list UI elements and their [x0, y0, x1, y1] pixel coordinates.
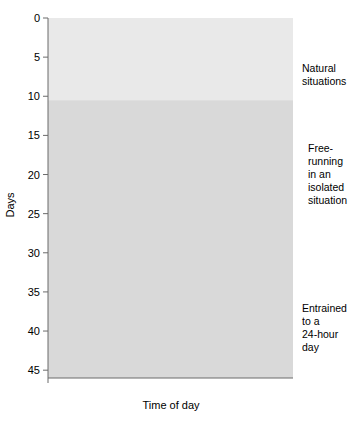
- actogram-svg: 051015202530354045 Days Time of day Natu…: [0, 0, 361, 426]
- annotation-entrained-line3: 24-hour: [302, 328, 339, 340]
- y-tick-label: 5: [34, 51, 40, 63]
- y-tick-label: 20: [28, 169, 40, 181]
- actogram-figure: 051015202530354045 Days Time of day Natu…: [0, 0, 361, 426]
- y-tick-label: 15: [28, 129, 40, 141]
- panel-natural: [48, 18, 293, 100]
- plot-panels: [48, 18, 293, 378]
- y-tick-label: 0: [34, 12, 40, 24]
- y-tick-label: 35: [28, 286, 40, 298]
- annotation-freerun-line2: running: [308, 155, 343, 167]
- annotation-natural-line2: situations: [302, 75, 346, 87]
- annotation-freerun-line4: isolated: [308, 181, 344, 193]
- y-tick-label: 25: [28, 208, 40, 220]
- annotation-natural-line1: Natural: [302, 62, 336, 74]
- y-axis-title: Days: [4, 192, 16, 218]
- annotation-freerun-line1: Free-: [308, 142, 334, 154]
- y-tick-label: 10: [28, 90, 40, 102]
- y-tick-label: 45: [28, 364, 40, 376]
- panel-isolated-entrained: [48, 100, 293, 378]
- annotation-entrained-line1: Entrained: [302, 302, 347, 314]
- annotation-freerun-line5: situation: [308, 194, 347, 206]
- x-axis-title: Time of day: [142, 399, 200, 411]
- y-tick-label: 30: [28, 247, 40, 259]
- annotation-entrained-line2: to a: [302, 315, 320, 327]
- y-tick-label: 40: [28, 325, 40, 337]
- annotation-freerun-line3: in an: [308, 168, 331, 180]
- annotation-entrained-line4: day: [302, 341, 320, 353]
